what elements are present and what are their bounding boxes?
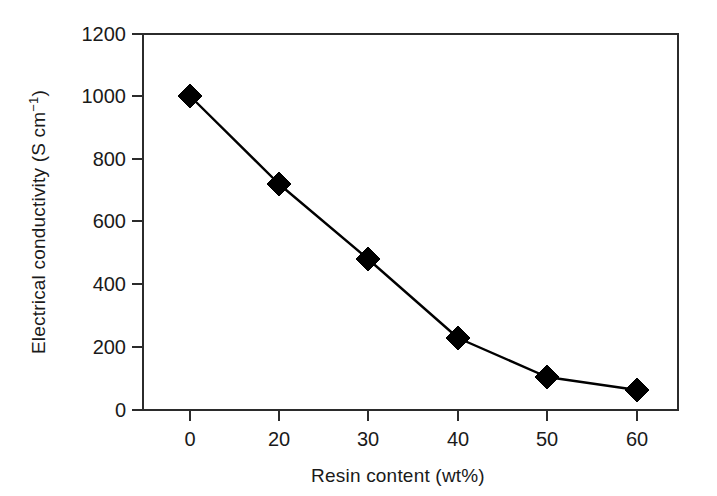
y-tick-label-600: 600 [93, 210, 126, 232]
x-tick-label-30: 30 [357, 428, 379, 450]
y-tick-label-1000: 1000 [82, 85, 127, 107]
y-axis-tick-labels: 1200 1000 800 600 400 200 0 [82, 23, 127, 421]
x-axis-title: Resin content (wt%) [311, 465, 485, 486]
y-axis-title-tail: ) [28, 90, 49, 97]
y-tick-label-1200: 1200 [82, 23, 127, 45]
y-tick-label-200: 200 [93, 336, 126, 358]
x-tick-label-40: 40 [447, 428, 469, 450]
y-axis-ticks [132, 34, 143, 410]
series-markers [178, 84, 649, 402]
x-tick-label-60: 60 [626, 428, 648, 450]
plot-frame [143, 34, 678, 410]
y-tick-label-800: 800 [93, 148, 126, 170]
y-axis-title-main: Electrical conductivity (S cm [28, 112, 49, 354]
y-tick-label-0: 0 [115, 399, 126, 421]
line-chart: 1200 1000 800 600 400 200 0 0 20 30 40 5… [0, 0, 717, 496]
chart-figure: 1200 1000 800 600 400 200 0 0 20 30 40 5… [0, 0, 717, 496]
y-axis-title-superscript: −1 [26, 96, 41, 111]
x-axis-ticks [190, 410, 637, 421]
x-tick-label-20: 20 [268, 428, 290, 450]
data-point-60[interactable] [625, 378, 649, 402]
x-tick-label-50: 50 [536, 428, 558, 450]
y-axis-title: Electrical conductivity (S cm−1) [26, 90, 49, 354]
data-point-50[interactable] [535, 365, 559, 389]
x-axis-tick-labels: 0 20 30 40 50 60 [184, 428, 648, 450]
x-tick-label-0: 0 [184, 428, 195, 450]
series-line-electrical-conductivity [190, 96, 637, 390]
y-tick-label-400: 400 [93, 273, 126, 295]
